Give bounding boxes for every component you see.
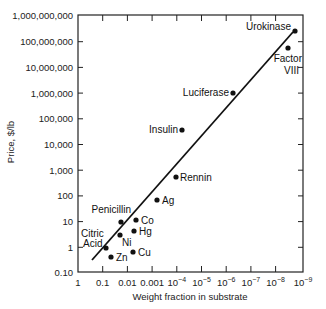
label-rennin: Rennin [180,172,212,183]
label-hg: Hg [139,226,152,237]
label-luciferase: Luciferase [183,87,230,98]
plot-frame [78,15,303,272]
label-factor: Factor [274,53,303,64]
label-urokinase: Urokinase [246,21,291,32]
y-tick-1e6: 1,000,000 [31,88,73,99]
label-zn: Zn [116,252,128,263]
point-penicillin [118,219,123,224]
x-axis-ticks [103,266,276,272]
y-axis-ticks [78,42,83,248]
price-vs-weight-fraction-chart: 1,000,000,000 100,000,000 10,000,000 1,0… [0,0,326,309]
point-cu [130,249,135,254]
y-tick-1: 1 [68,242,73,253]
point-labels: Urokinase Factor VIII Luciferase Insulin… [81,21,303,263]
x-tick-1e-7: 10−7 [242,276,261,288]
x-tick-1e-9: 10−9 [294,276,313,288]
label-viii: VIII [284,65,299,76]
x-axis-title: Weight fraction in substrate [133,291,248,302]
point-co [133,217,138,222]
x-tick-0.001: 0.001 [140,277,164,288]
x-tick-0.1: 0.1 [96,277,109,288]
label-insulin: Insulin [149,124,178,135]
label-acid: Acid [83,238,102,249]
trend-line [92,32,293,260]
label-co: Co [141,215,154,226]
y-tick-1e8: 100,000,000 [20,36,73,47]
y-tick-10: 10 [62,216,73,227]
label-penicillin: Penicillin [92,204,131,215]
label-ni: Ni [122,237,131,248]
data-points [103,28,297,259]
label-ag: Ag [162,195,174,206]
point-ag [154,197,159,202]
point-zn [108,254,113,259]
label-cu: Cu [138,247,151,258]
point-rennin [173,174,178,179]
y-axis-title: Price, $/lb [5,121,16,163]
y-tick-1e4: 10,000 [44,139,73,150]
point-insulin [179,127,184,132]
x-tick-1e-5: 10−5 [192,276,211,288]
x-tick-0.01: 0.01 [118,277,137,288]
y-tick-labels: 1,000,000,000 100,000,000 10,000,000 1,0… [12,10,73,278]
x-tick-labels: 1 0.1 0.01 0.001 10−4 10−5 10−6 10−7 10−… [75,276,312,288]
point-hg [131,228,136,233]
y-tick-0.1: 0.10 [55,267,74,278]
point-factor-viii [285,45,290,50]
point-luciferase [230,90,235,95]
point-urokinase [292,28,297,33]
point-citric-acid [103,245,108,250]
y-tick-100: 100 [57,190,73,201]
x-tick-1e-4: 10−4 [168,276,187,288]
x-tick-1e-6: 10−6 [217,276,236,288]
y-tick-1e9: 1,000,000,000 [12,10,73,21]
y-tick-1e3: 1,000 [49,165,73,176]
y-tick-1e5: 100,000 [39,113,73,124]
x-tick-1e-8: 10−8 [266,276,285,288]
x-tick-1: 1 [75,277,80,288]
y-tick-1e7: 10,000,000 [25,62,73,73]
